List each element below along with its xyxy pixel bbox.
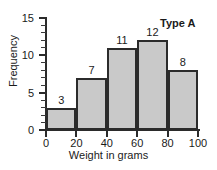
x-axis-tick-label: 100 bbox=[183, 137, 213, 149]
histogram-bar bbox=[107, 48, 137, 130]
y-axis-major-tick bbox=[39, 92, 46, 94]
histogram-bar bbox=[168, 70, 198, 130]
bar-value-label: 8 bbox=[168, 56, 198, 68]
bar-value-label: 7 bbox=[77, 64, 107, 76]
y-axis-tick-label: 0 bbox=[4, 125, 34, 135]
histogram-chart: Frequency 051015 020406080100 3711128 We… bbox=[0, 0, 217, 170]
histogram-bar bbox=[76, 78, 106, 130]
x-axis-tick-label: 60 bbox=[122, 137, 152, 149]
y-axis-tick-label: 10 bbox=[4, 50, 34, 60]
y-axis-tick-label: 15 bbox=[4, 13, 34, 23]
y-axis-major-tick bbox=[39, 17, 46, 19]
histogram-bar bbox=[137, 40, 167, 130]
y-axis-major-tick bbox=[39, 54, 46, 56]
y-axis-tick-label: 5 bbox=[4, 88, 34, 98]
x-axis-tick-label: 0 bbox=[31, 137, 61, 149]
x-axis-tick-label: 40 bbox=[92, 137, 122, 149]
x-axis-tick-label: 80 bbox=[153, 137, 183, 149]
series-annotation: Type A bbox=[160, 17, 195, 29]
bar-value-label: 3 bbox=[46, 94, 76, 106]
x-axis-label: Weight in grams bbox=[0, 149, 217, 161]
histogram-bar bbox=[46, 108, 76, 130]
bar-value-label: 11 bbox=[107, 34, 137, 46]
x-axis-tick-label: 20 bbox=[61, 137, 91, 149]
